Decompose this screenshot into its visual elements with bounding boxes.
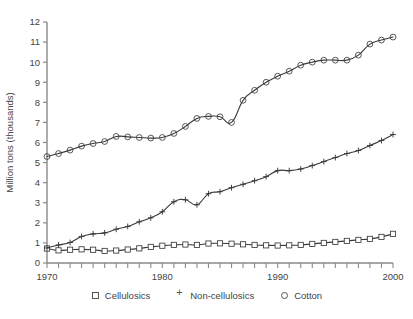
data-point-marker <box>91 247 96 252</box>
data-point-marker <box>379 234 384 239</box>
line-chart-plot: 0123456789101112 Million tons (thousands… <box>0 0 413 319</box>
data-point-marker <box>275 73 281 79</box>
data-point-marker <box>367 143 373 149</box>
data-point-marker <box>125 247 130 252</box>
data-point-marker <box>332 57 338 63</box>
data-point-marker <box>125 224 131 230</box>
data-point-marker <box>183 197 189 203</box>
data-point-marker <box>159 135 165 141</box>
x-tick-label: 1980 <box>152 271 173 282</box>
y-tick-label: 8 <box>35 97 40 108</box>
data-point-marker <box>136 219 142 225</box>
data-point-marker <box>217 114 223 120</box>
series-cotton <box>44 34 396 159</box>
data-point-marker <box>309 59 315 65</box>
data-point-marker <box>206 241 211 246</box>
data-point-marker <box>332 155 338 161</box>
data-point-marker <box>264 243 269 248</box>
data-point-marker <box>356 237 361 242</box>
y-tick-label: 7 <box>35 117 40 128</box>
x-tick-label: 1970 <box>36 271 57 282</box>
legend-item-cotton: Cotton <box>280 290 322 301</box>
data-point-marker <box>298 166 304 172</box>
legend-label-non-cellulosics: Non-cellulosics <box>190 290 254 301</box>
data-point-marker <box>286 168 292 174</box>
data-point-marker <box>217 189 223 195</box>
data-point-marker <box>240 181 246 187</box>
data-point-marker <box>194 116 200 122</box>
data-point-marker <box>194 202 200 208</box>
data-point-marker <box>79 143 85 149</box>
data-point-marker <box>171 242 176 247</box>
data-point-marker <box>125 134 131 140</box>
data-point-marker <box>90 231 96 237</box>
data-point-marker <box>229 185 235 191</box>
data-point-marker <box>113 134 119 140</box>
y-axis-title: Million tons (thousands) <box>4 92 15 192</box>
y-tick-label: 0 <box>35 257 40 268</box>
legend-item-cellulosics: Cellulosics <box>91 290 150 301</box>
data-point-marker <box>183 124 189 130</box>
data-point-marker <box>171 131 177 137</box>
data-point-marker <box>252 178 258 184</box>
data-point-marker <box>321 240 326 245</box>
series-non-cellulosics <box>44 132 396 251</box>
data-point-marker <box>390 231 395 236</box>
data-point-marker <box>344 151 350 157</box>
data-point-marker <box>310 241 315 246</box>
data-point-marker <box>379 138 385 144</box>
y-tick-label: 5 <box>35 157 40 168</box>
data-point-marker <box>113 226 119 232</box>
data-point-marker <box>194 242 199 247</box>
data-point-marker <box>344 238 349 243</box>
y-axis-title-text: Million tons (thousands) <box>4 92 15 192</box>
chart-container: 0123456789101112 Million tons (thousands… <box>0 0 413 319</box>
data-point-marker <box>44 154 50 160</box>
data-point-marker <box>287 243 292 248</box>
data-point-marker <box>252 87 258 93</box>
circle-marker-icon <box>280 291 289 300</box>
y-tick-label: 2 <box>35 217 40 228</box>
legend-label-cotton: Cotton <box>294 290 322 301</box>
data-point-marker <box>160 243 165 248</box>
data-point-marker <box>298 62 304 68</box>
data-point-marker <box>137 246 142 251</box>
data-point-marker <box>56 248 61 253</box>
data-point-marker <box>102 139 108 145</box>
square-marker-icon <box>91 291 100 300</box>
data-point-marker <box>390 132 396 138</box>
y-tick-label: 6 <box>35 137 40 148</box>
x-tick-label: 1990 <box>267 271 288 282</box>
data-point-marker <box>379 37 385 43</box>
data-series-group <box>44 34 396 253</box>
data-point-marker <box>79 234 85 240</box>
data-point-marker <box>321 57 327 63</box>
data-point-marker <box>321 159 327 165</box>
data-point-marker <box>356 148 362 154</box>
data-point-marker <box>356 52 362 58</box>
plus-marker-icon <box>176 291 185 300</box>
data-point-marker <box>309 163 315 169</box>
data-point-marker <box>67 247 72 252</box>
data-point-marker <box>229 241 234 246</box>
data-point-marker <box>333 239 338 244</box>
data-point-marker <box>298 242 303 247</box>
y-tick-label: 12 <box>29 16 40 27</box>
y-tick-label: 10 <box>29 57 40 68</box>
data-point-marker <box>102 248 107 253</box>
legend-item-non-cellulosics: Non-cellulosics <box>176 290 254 301</box>
y-tick-label: 3 <box>35 197 40 208</box>
data-point-marker <box>240 242 245 247</box>
data-point-marker <box>67 147 73 153</box>
data-point-marker <box>148 244 153 249</box>
y-tick-label: 9 <box>35 77 40 88</box>
data-point-marker <box>367 41 373 47</box>
x-tick-label: 2000 <box>382 271 403 282</box>
data-point-marker <box>275 168 281 174</box>
data-point-marker <box>114 248 119 253</box>
data-point-marker <box>102 230 108 236</box>
y-axis: 0123456789101112 <box>29 16 47 268</box>
data-point-marker <box>56 242 62 248</box>
data-point-marker <box>390 34 396 40</box>
data-point-marker <box>263 174 269 180</box>
